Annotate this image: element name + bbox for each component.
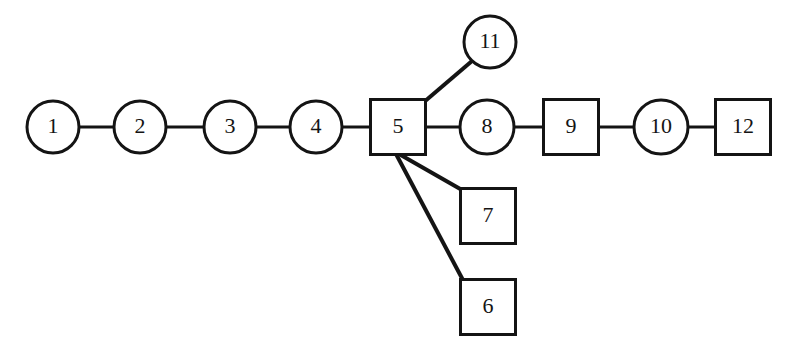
node-label-2: 2 <box>135 113 146 138</box>
node-1[interactable]: 1 <box>27 101 79 153</box>
node-label-10: 10 <box>650 113 672 138</box>
node-label-5: 5 <box>393 113 404 138</box>
edge-5-11 <box>424 61 472 102</box>
node-8[interactable]: 8 <box>460 100 514 154</box>
node-10[interactable]: 10 <box>634 100 688 154</box>
edges-layer <box>79 61 716 282</box>
node-5[interactable]: 5 <box>371 100 426 155</box>
node-7[interactable]: 7 <box>461 189 516 244</box>
node-3[interactable]: 3 <box>204 101 256 153</box>
node-label-11: 11 <box>479 28 500 53</box>
node-9[interactable]: 9 <box>544 100 599 155</box>
node-2[interactable]: 2 <box>114 101 166 153</box>
node-label-6: 6 <box>483 293 494 318</box>
edge-5-7 <box>399 154 462 190</box>
node-label-12: 12 <box>732 113 754 138</box>
node-label-7: 7 <box>483 202 494 227</box>
node-label-1: 1 <box>48 113 59 138</box>
node-11[interactable]: 11 <box>464 16 516 68</box>
node-6[interactable]: 6 <box>461 280 516 335</box>
node-label-9: 9 <box>566 113 577 138</box>
node-12[interactable]: 12 <box>716 100 771 155</box>
node-4[interactable]: 4 <box>290 101 342 153</box>
node-label-3: 3 <box>225 113 236 138</box>
node-label-8: 8 <box>482 113 493 138</box>
pedigree-diagram: 123456789101112 <box>0 0 798 353</box>
node-label-4: 4 <box>311 113 322 138</box>
graph-canvas: 123456789101112 <box>0 0 798 353</box>
nodes-layer: 123456789101112 <box>27 16 771 335</box>
